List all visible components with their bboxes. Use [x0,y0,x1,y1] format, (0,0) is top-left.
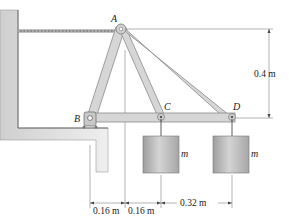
dim-a-to-c: 0.16 m [128,206,155,216]
mass-D [213,136,249,173]
mass-D-label: m [251,148,258,159]
wall-support [0,10,108,172]
pin-B [88,116,93,121]
mass-C-label: m [181,148,188,159]
member-AB [87,27,124,121]
label-A: A [110,13,118,24]
mass-C [143,136,179,173]
dim-height: 0.4 m [254,69,276,79]
dim-b-to-a: 0.16 m [93,206,120,216]
truss-diagram: A B C D m m 0.4 m 0.16 m 0.16 m 0.32 m [0,0,289,224]
member-AD [121,25,234,122]
label-B: B [74,113,80,124]
member-AC [120,28,164,117]
label-C: C [164,101,171,112]
dim-c-to-d: 0.32 m [180,198,207,208]
truss-members [87,25,235,122]
label-D: D [232,101,241,112]
